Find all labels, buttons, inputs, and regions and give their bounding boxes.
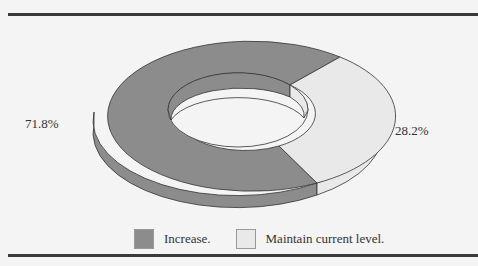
legend-label-increase: Increase. — [164, 231, 211, 247]
legend: Increase. Maintain current level. — [134, 229, 384, 249]
bottom-rule — [8, 254, 478, 257]
legend-item-maintain: Maintain current level. — [236, 229, 385, 249]
legend-swatch-increase — [134, 229, 154, 249]
legend-label-maintain: Maintain current level. — [266, 231, 385, 247]
legend-item-increase: Increase. — [134, 229, 211, 249]
legend-swatch-maintain — [236, 229, 256, 249]
label-maintain-pct: 28.2% — [395, 123, 429, 139]
donut-hole — [168, 73, 308, 147]
label-increase-pct: 71.8% — [25, 116, 59, 132]
